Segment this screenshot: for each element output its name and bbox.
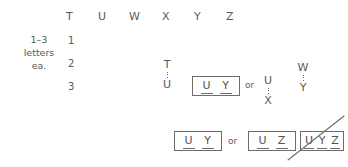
side-annotation-line-3: ea.	[8, 59, 70, 72]
slot-letter: Z	[278, 135, 286, 147]
letter-slot: U	[256, 135, 269, 149]
side-annotation: 1–3 letters ea.	[8, 33, 70, 72]
letter-slot: Y	[317, 135, 327, 149]
letter-box-uy-middle[interactable]: U Y	[192, 76, 240, 96]
or-connector-middle: or	[245, 80, 254, 90]
letter-box-uy-bottom[interactable]: U Y	[174, 131, 222, 151]
stack-dots-icon	[261, 88, 275, 94]
slot-letter: U	[258, 135, 266, 147]
row-number-2: 2	[68, 58, 75, 69]
stack-bottom-letter: U	[160, 79, 174, 90]
letter-box-uz-bottom[interactable]: U Z	[248, 131, 296, 151]
letter-slot: U	[304, 135, 314, 149]
row-number-1: 1	[68, 35, 75, 46]
slot-underline	[317, 148, 327, 149]
column-header-u: U	[98, 11, 107, 22]
slot-letter: U	[184, 135, 192, 147]
column-header-w: W	[129, 11, 140, 22]
letter-slot: Z	[275, 135, 288, 149]
column-header-x: X	[162, 11, 170, 22]
or-connector-bottom: or	[228, 136, 237, 146]
side-annotation-line-1: 1–3	[8, 33, 70, 46]
letter-stack-t-u: T U	[160, 59, 174, 90]
slot-letter: U	[202, 80, 210, 92]
slot-underline	[220, 93, 232, 94]
letter-slot: Y	[201, 135, 214, 149]
letter-box-uyz-crossed[interactable]: U Y Z	[300, 131, 344, 151]
slot-underline	[304, 148, 314, 149]
column-header-t: T	[66, 11, 73, 22]
slot-underline	[276, 148, 288, 149]
slot-letter: Y	[222, 80, 229, 92]
side-annotation-line-2: letters	[8, 46, 70, 59]
letter-slot: U	[200, 80, 213, 94]
letter-stack-u-x: U X	[261, 75, 275, 106]
slot-underline	[202, 148, 214, 149]
row-number-3: 3	[68, 81, 75, 92]
column-header-y: Y	[194, 11, 201, 22]
letter-slot: Z	[330, 135, 340, 149]
slot-underline	[201, 93, 213, 94]
slot-letter: Z	[331, 135, 339, 147]
slot-underline	[183, 148, 195, 149]
stack-bottom-letter: X	[261, 95, 275, 106]
stack-bottom-letter: Y	[296, 82, 310, 93]
stack-top-letter: W	[296, 62, 310, 73]
stack-dots-icon	[160, 72, 174, 78]
slot-underline	[257, 148, 269, 149]
stack-top-letter: T	[160, 59, 174, 70]
slot-letter: Y	[204, 135, 211, 147]
letter-slot: U	[182, 135, 195, 149]
letter-stack-w-y: W Y	[296, 62, 310, 93]
column-header-z: Z	[226, 11, 234, 22]
diagram-canvas: 1–3 letters ea. T U W X Y Z 1 2 3 T U U …	[0, 0, 348, 167]
slot-letter: U	[305, 135, 313, 147]
slot-letter: Y	[319, 135, 326, 147]
slot-underline	[330, 148, 340, 149]
stack-dots-icon	[296, 75, 310, 81]
stack-top-letter: U	[261, 75, 275, 86]
letter-slot: Y	[219, 80, 232, 94]
